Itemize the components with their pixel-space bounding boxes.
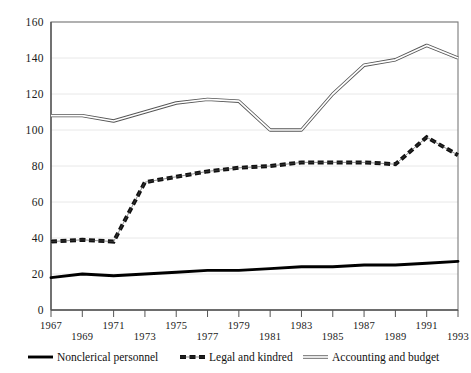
y-tick-label-20: 20 xyxy=(32,268,44,280)
x-tick-label-1969: 1969 xyxy=(71,331,93,342)
y-axis: 020406080100120140160 xyxy=(26,16,51,316)
line-chart: 0204060801001201401601967196919711973197… xyxy=(0,0,471,373)
y-tick-label-40: 40 xyxy=(32,232,44,244)
y-tick-label-120: 120 xyxy=(26,88,44,100)
x-tick-label-1993: 1993 xyxy=(447,331,469,342)
series-line-thick-solid xyxy=(51,261,458,277)
x-tick-label-1991: 1991 xyxy=(416,320,438,331)
legend-label-0: Nonclerical personnel xyxy=(57,351,158,364)
y-tick-label-0: 0 xyxy=(38,304,44,316)
x-tick-label-1967: 1967 xyxy=(40,320,62,331)
legend-label-2: Accounting and budget xyxy=(332,351,440,364)
x-tick-label-1987: 1987 xyxy=(353,320,375,331)
series-line-dashed-casing xyxy=(51,137,458,241)
x-axis: 1967196919711973197519771979198119831985… xyxy=(40,310,469,342)
x-tick-label-1983: 1983 xyxy=(290,320,312,331)
chart-canvas: 0204060801001201401601967196919711973197… xyxy=(0,0,471,373)
series-legal-and-kindred xyxy=(51,137,458,241)
legend-item-1: Legal and kindred xyxy=(180,351,293,364)
x-tick-label-1985: 1985 xyxy=(322,331,344,342)
legend-label-1: Legal and kindred xyxy=(209,351,293,364)
x-tick-label-1975: 1975 xyxy=(165,320,187,331)
x-tick-label-1973: 1973 xyxy=(134,331,156,342)
y-tick-label-140: 140 xyxy=(26,52,44,64)
y-tick-label-60: 60 xyxy=(32,196,44,208)
series-nonclerical-personnel xyxy=(51,261,458,277)
x-tick-label-1979: 1979 xyxy=(228,320,250,331)
x-tick-label-1977: 1977 xyxy=(196,331,218,342)
y-tick-label-160: 160 xyxy=(26,16,44,28)
legend-item-0: Nonclerical personnel xyxy=(28,351,158,364)
data-series-group xyxy=(51,45,458,277)
x-tick-label-1981: 1981 xyxy=(259,331,281,342)
legend-item-2: Accounting and budget xyxy=(303,351,440,364)
series-line-dashed-hairline xyxy=(51,137,458,241)
series-line-dashed xyxy=(51,137,458,241)
y-tick-label-80: 80 xyxy=(32,160,44,172)
x-tick-label-1971: 1971 xyxy=(103,320,125,331)
x-tick-label-1989: 1989 xyxy=(384,331,406,342)
y-tick-label-100: 100 xyxy=(26,124,44,136)
legend: Nonclerical personnelLegal and kindredAc… xyxy=(28,351,440,364)
